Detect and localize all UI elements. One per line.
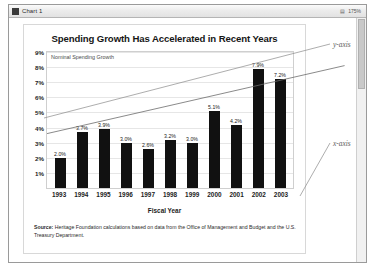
x-axis-tick-label: 1998: [159, 191, 181, 198]
bar-slot: 4.2%: [225, 52, 247, 188]
x-axis-tick-label: 2003: [270, 191, 292, 198]
annotation-y-axis: y-axis: [333, 40, 351, 49]
bar-value-label: 3.0%: [120, 136, 132, 142]
bar[interactable]: 3.9%: [99, 129, 110, 188]
bar-slot: 3.9%: [93, 52, 115, 188]
bar[interactable]: 2.6%: [143, 149, 154, 188]
source-label: Source:: [34, 224, 53, 230]
x-axis-tick-label: 1994: [70, 191, 92, 198]
vertical-scrollbar[interactable]: [356, 18, 366, 262]
x-axis-title: Fiscal Year: [24, 207, 305, 214]
y-axis-tick-label: 1%: [35, 169, 44, 176]
plot-area: Nominal Spending Growth 9%8%7%6%5%4%3%2%…: [46, 51, 294, 189]
bar-value-label: 2.6%: [142, 142, 154, 148]
bar-slot: 3.0%: [115, 52, 137, 188]
bar-value-label: 3.7%: [76, 125, 88, 131]
x-axis-tick-label: 1997: [137, 191, 159, 198]
bar[interactable]: 2.0%: [55, 158, 66, 188]
source-text: Heritage Foundation calculations based o…: [34, 224, 296, 238]
x-axis-ticks: 1993199419951996199719981999200020012002…: [46, 191, 294, 198]
window-title-bar[interactable]: Chart 1 ▤ 175%: [9, 5, 366, 18]
x-axis-tick-label: 1999: [181, 191, 203, 198]
bar-slot: 3.2%: [159, 52, 181, 188]
y-axis-tick-label: 4%: [35, 124, 44, 131]
x-axis-tick-label: 1996: [115, 191, 137, 198]
window-body: Spending Growth Has Accelerated in Recen…: [9, 18, 366, 262]
bar-value-label: 5.1%: [208, 104, 220, 110]
x-axis-tick-label: 1995: [92, 191, 114, 198]
annotation-x-axis: x-axis: [333, 139, 351, 148]
y-axis-tick-label: 9%: [35, 49, 44, 56]
y-axis-tick-label: 5%: [35, 109, 44, 116]
bar-slot: 5.1%: [203, 52, 225, 188]
y-axis-tick-label: 6%: [35, 94, 44, 101]
bar-value-label: 7.9%: [252, 62, 264, 68]
window-title: Chart 1: [22, 8, 42, 14]
chart-title: Spending Growth Has Accelerated in Recen…: [24, 33, 305, 44]
bar[interactable]: 4.2%: [231, 125, 242, 188]
bar[interactable]: 3.0%: [187, 143, 198, 188]
bar-slot: 2.0%: [49, 52, 71, 188]
bar-value-label: 3.9%: [98, 122, 110, 128]
bar-value-label: 3.0%: [186, 136, 198, 142]
chart-figure: Spending Growth Has Accelerated in Recen…: [23, 24, 306, 254]
x-axis-tick-label: 2001: [226, 191, 248, 198]
bar-value-label: 4.2%: [230, 118, 242, 124]
bar[interactable]: 7.9%: [253, 69, 264, 188]
bar[interactable]: 3.7%: [77, 132, 88, 188]
title-bar-right-group: ▤ 175%: [340, 8, 363, 14]
x-axis-tick-label: 2002: [248, 191, 270, 198]
bar-value-label: 7.2%: [274, 72, 286, 78]
y-axis-tick-label: 7%: [35, 79, 44, 86]
bar-slot: 2.6%: [137, 52, 159, 188]
source-note: Source: Heritage Foundation calculations…: [34, 224, 296, 240]
x-axis-tick-label: 2000: [203, 191, 225, 198]
bar[interactable]: 3.2%: [165, 140, 176, 188]
grid-icon[interactable]: ▤: [340, 9, 345, 14]
bar-slot: 3.0%: [181, 52, 203, 188]
bar[interactable]: 5.1%: [209, 111, 220, 188]
plot-wrapper: Nominal Spending Growth 9%8%7%6%5%4%3%2%…: [46, 51, 294, 189]
content-pane: Spending Growth Has Accelerated in Recen…: [9, 18, 356, 262]
zoom-level-label[interactable]: 175%: [348, 8, 361, 14]
bar-slot: 7.9%: [247, 52, 269, 188]
chart-window-icon: [12, 8, 19, 15]
scrollbar-thumb[interactable]: [358, 19, 365, 89]
y-axis-tick-label: 8%: [35, 64, 44, 71]
bar-value-label: 3.2%: [164, 133, 176, 139]
y-axis-tick-label: 2%: [35, 154, 44, 161]
bar[interactable]: 3.0%: [121, 143, 132, 188]
bar[interactable]: 7.2%: [275, 79, 286, 188]
chart-window: Chart 1 ▤ 175% Spending Growth Has Accel…: [8, 4, 367, 263]
bar-slot: 7.2%: [269, 52, 291, 188]
x-axis-tick-label: 1993: [48, 191, 70, 198]
bar-slot: 3.7%: [71, 52, 93, 188]
y-axis-tick-label: 3%: [35, 139, 44, 146]
bar-series: 2.0%3.7%3.9%3.0%2.6%3.2%3.0%5.1%4.2%7.9%…: [47, 52, 293, 188]
bar-value-label: 2.0%: [54, 151, 66, 157]
